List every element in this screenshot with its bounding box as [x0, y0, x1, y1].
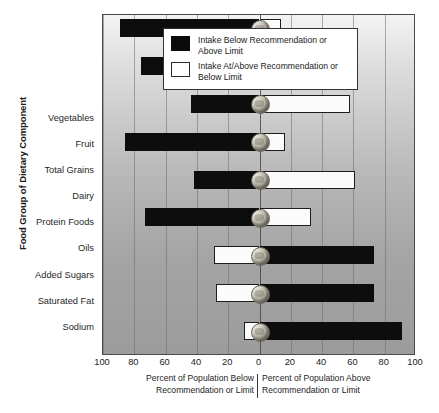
bar-row [103, 242, 414, 268]
y-tick-label: Protein Foods [0, 209, 99, 235]
x-tick-label: 40 [181, 357, 211, 367]
y-tick-label: Saturated Fat [0, 288, 99, 314]
bar-above-recommendation [260, 95, 351, 113]
chart-legend: Intake Below Recommendation or Above Lim… [163, 28, 358, 90]
y-axis-tick-labels: Vegetables Fruit Total Grains Dairy Prot… [0, 105, 99, 340]
y-tick-label: Dairy [0, 183, 99, 209]
y-tick-label: Oils [0, 235, 99, 261]
row-marker-icon [251, 171, 270, 190]
bar-row [103, 167, 414, 193]
y-tick-label: Vegetables [0, 105, 99, 131]
row-marker-icon [251, 285, 270, 304]
y-tick-label: Fruit [0, 131, 99, 157]
x-axis-caption-left: Percent of Population Below Recommendati… [118, 373, 260, 396]
x-tick-label: 40 [306, 357, 336, 367]
legend-swatch-black-icon [171, 36, 190, 51]
x-tick-label: 60 [150, 357, 180, 367]
legend-item: Intake Below Recommendation or Above Lim… [171, 35, 350, 56]
x-tick-label: 0 [244, 357, 274, 367]
row-marker-icon [251, 209, 270, 228]
bar-row [103, 318, 414, 344]
row-marker-icon [251, 323, 270, 342]
bar-above-recommendation [260, 322, 402, 340]
bar-below-recommendation [194, 171, 260, 189]
row-marker-icon [251, 247, 270, 266]
x-tick-label: 60 [337, 357, 367, 367]
bar-above-recommendation [260, 246, 374, 264]
bar-below-recommendation [191, 95, 260, 113]
bar-row [103, 204, 414, 230]
x-tick-label: 100 [400, 357, 430, 367]
legend-swatch-white-icon [171, 62, 190, 77]
bar-below-recommendation [125, 133, 260, 151]
y-tick-label: Added Sugars [0, 262, 99, 288]
legend-label: Intake Below Recommendation or Above Lim… [198, 35, 350, 56]
x-axis-tick-labels: 10080604020020406080100 [0, 357, 439, 370]
x-tick-label: 80 [369, 357, 399, 367]
y-tick-label: Total Grains [0, 157, 99, 183]
legend-label: Intake At/Above Recommendation or Below … [198, 61, 350, 82]
bar-above-recommendation [260, 171, 355, 189]
x-tick-label: 20 [275, 357, 305, 367]
bar-row [103, 91, 414, 117]
x-tick-label: 80 [118, 357, 148, 367]
bar-row [103, 280, 414, 306]
bar-above-recommendation [260, 284, 374, 302]
legend-item: Intake At/Above Recommendation or Below … [171, 61, 350, 82]
x-axis-caption-right: Percent of Population Above Recommendati… [262, 373, 412, 396]
x-tick-label: 20 [212, 357, 242, 367]
x-tick-label: 100 [87, 357, 117, 367]
chart-figure: Food Group of Dietary Component Vegetabl… [0, 0, 439, 413]
bar-below-recommendation [145, 208, 259, 226]
y-tick-label: Sodium [0, 314, 99, 340]
bar-row [103, 129, 414, 155]
